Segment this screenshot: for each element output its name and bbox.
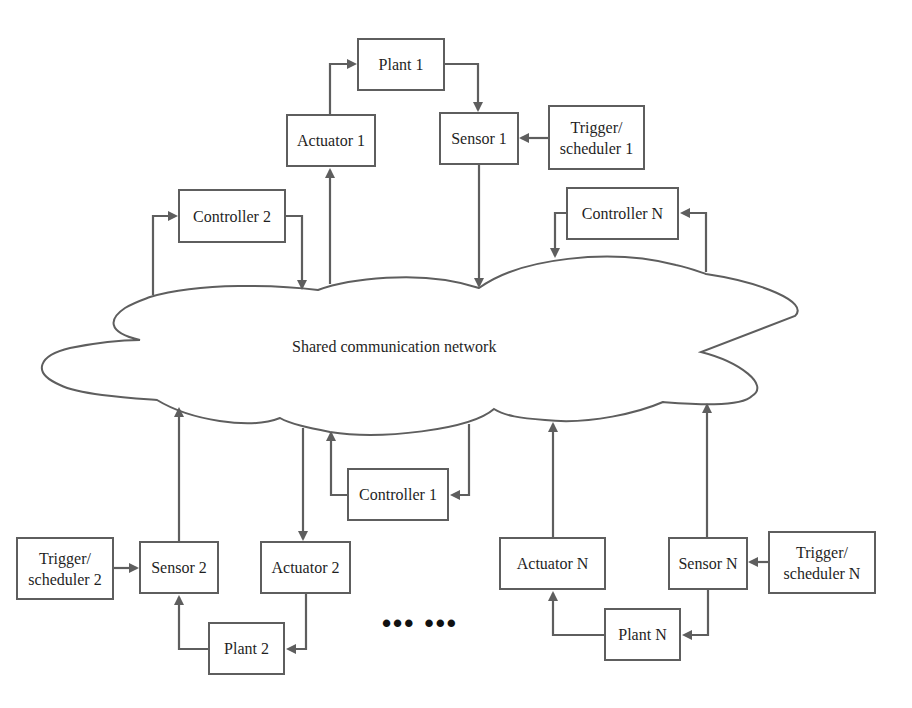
wire-controller1-network	[331, 433, 347, 495]
sensor-n-box: Sensor N	[668, 537, 748, 590]
wire-actuator1-plant1	[330, 64, 355, 114]
wire-plant1-sensor1	[445, 64, 478, 110]
plant-2-box: Plant 2	[208, 622, 285, 675]
sensor-2-box: Sensor 2	[139, 541, 219, 594]
wire-plantN-actuatorN	[553, 593, 604, 635]
trigger-scheduler-n-box: Trigger/ scheduler N	[768, 531, 876, 594]
trigger-scheduler-1-box: Trigger/ scheduler 1	[548, 105, 645, 170]
wire-network-controller2	[153, 216, 176, 295]
wire-controller2-network	[286, 216, 302, 288]
plant-n-box: Plant N	[604, 608, 681, 661]
controller-1-box: Controller 1	[347, 468, 449, 521]
wire-plant2-sensor2	[179, 597, 208, 649]
plant-1-box: Plant 1	[357, 38, 445, 91]
wire-network-controllerN	[682, 213, 706, 272]
network-label: Shared communication network	[292, 338, 496, 356]
actuator-2-box: Actuator 2	[260, 541, 351, 594]
wire-controllerN-network	[555, 213, 566, 256]
controller-2-box: Controller 2	[178, 189, 286, 243]
controller-n-box: Controller N	[566, 187, 679, 240]
ellipsis: ••• •••	[382, 608, 458, 639]
wire-sensorN-plantN	[684, 590, 708, 635]
wire-network-controller1	[452, 424, 469, 495]
actuator-n-box: Actuator N	[499, 537, 606, 590]
wire-actuator2-plant2	[288, 594, 306, 649]
actuator-1-box: Actuator 1	[286, 114, 376, 167]
trigger-scheduler-2-box: Trigger/ scheduler 2	[16, 537, 114, 600]
sensor-1-box: Sensor 1	[439, 112, 519, 165]
